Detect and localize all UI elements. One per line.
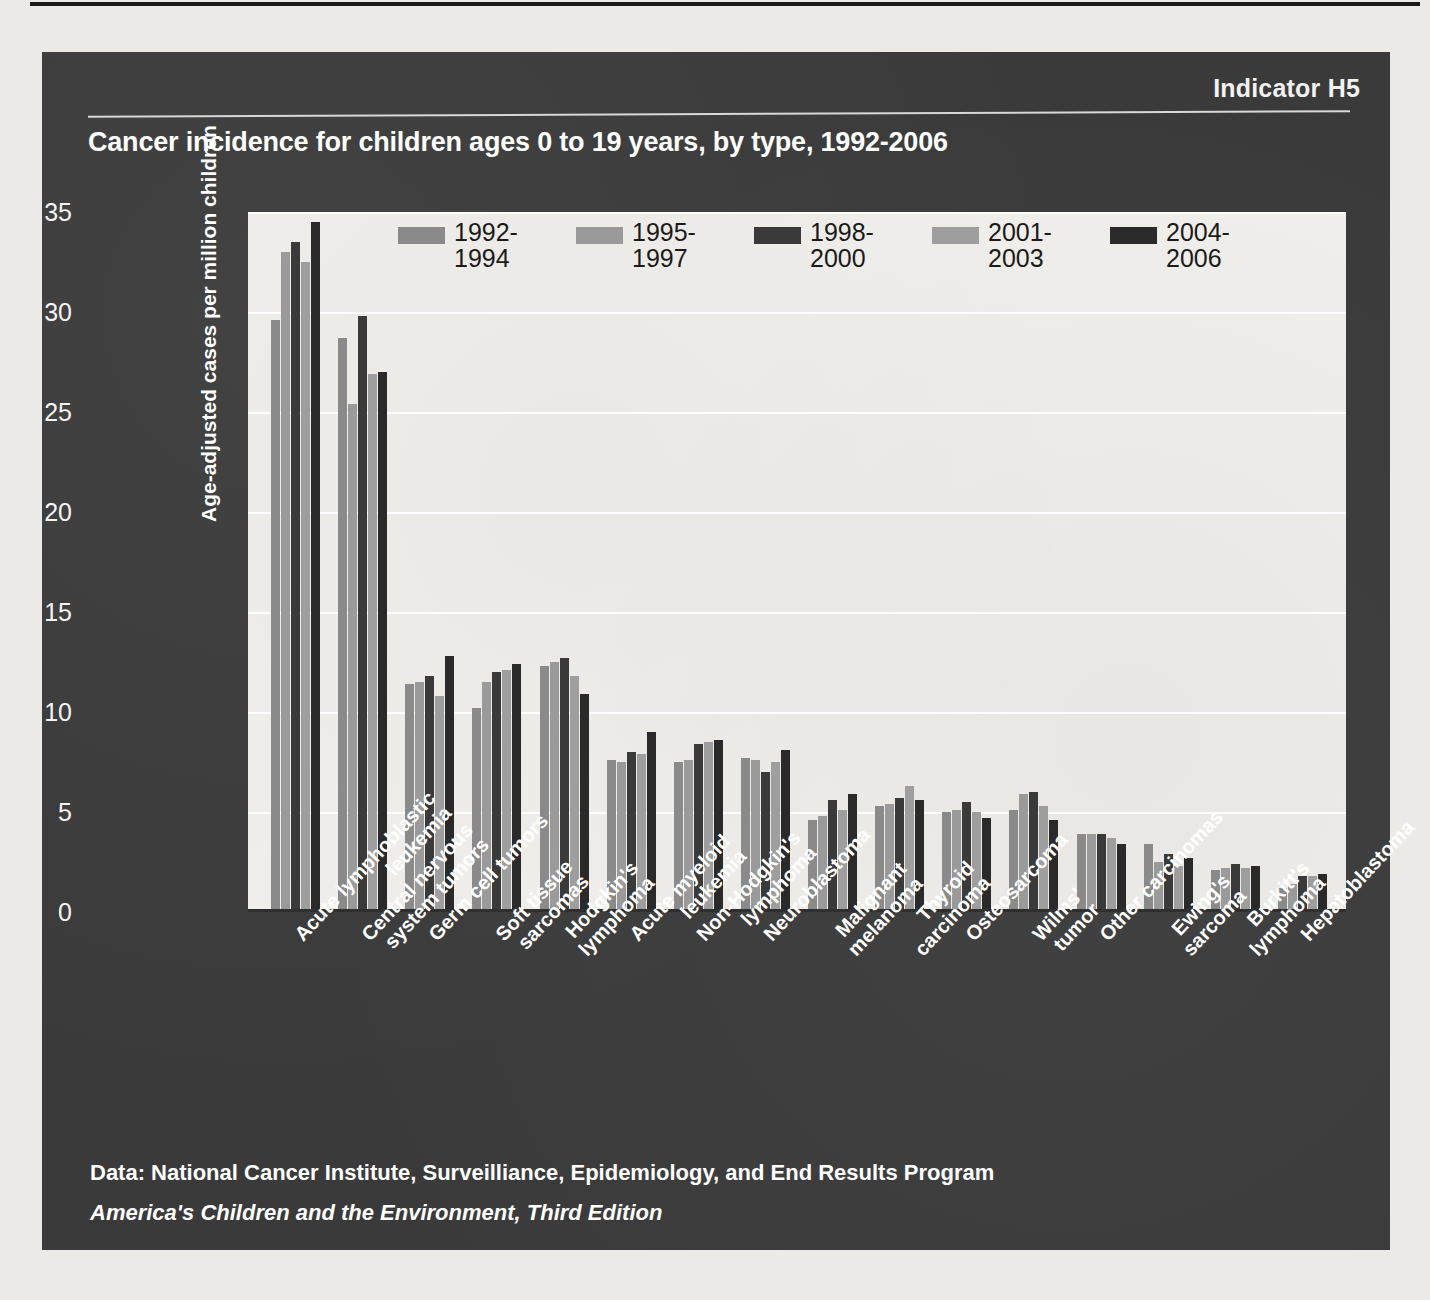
bar[interactable] — [291, 242, 300, 912]
bar-group — [1135, 212, 1202, 912]
legend-label: 1998-2000 — [810, 220, 896, 272]
x-axis-category-labels: Acute lymphoblasticleukemiaCentral nervo… — [248, 924, 1346, 1154]
y-tick-0: 0 — [12, 898, 72, 927]
chart-panel: Indicator H5 Cancer incidence for childr… — [42, 52, 1390, 1250]
legend-swatch-icon — [932, 227, 979, 244]
bar-group — [463, 212, 530, 912]
y-tick-25: 25 — [12, 398, 72, 427]
bar-group — [1068, 212, 1135, 912]
legend-item-2001-2003[interactable]: 2001-2003 — [932, 220, 1074, 272]
legend-label: 1992-1994 — [454, 220, 540, 272]
y-tick-5: 5 — [12, 798, 72, 827]
bar[interactable] — [311, 222, 320, 912]
bar-group — [329, 212, 396, 912]
bar-group — [866, 212, 933, 912]
y-tick-35: 35 — [12, 198, 72, 227]
bar-group — [1000, 212, 1067, 912]
bar[interactable] — [1097, 834, 1106, 912]
bar-group — [665, 212, 732, 912]
bar-group — [799, 212, 866, 912]
y-tick-20: 20 — [12, 498, 72, 527]
scan-artifact-line — [30, 2, 1420, 6]
bar[interactable] — [512, 664, 521, 912]
legend-swatch-icon — [754, 227, 801, 244]
y-tick-30: 30 — [12, 298, 72, 327]
legend-label: 2001-2003 — [988, 220, 1074, 272]
y-tick-10: 10 — [12, 698, 72, 727]
bar-group — [598, 212, 665, 912]
bar[interactable] — [281, 252, 290, 912]
indicator-label: Indicator H5 — [1213, 74, 1360, 103]
chart-legend: 1992-19941995-19971998-20002001-20032004… — [398, 220, 1252, 272]
legend-item-1995-1997[interactable]: 1995-1997 — [576, 220, 718, 272]
bar[interactable] — [338, 338, 347, 912]
legend-swatch-icon — [1110, 227, 1157, 244]
bar-group — [262, 212, 329, 912]
bar[interactable] — [301, 262, 310, 912]
legend-swatch-icon — [576, 227, 623, 244]
legend-item-1992-1994[interactable]: 1992-1994 — [398, 220, 540, 272]
y-tick-15: 15 — [12, 598, 72, 627]
edition-note: America's Children and the Environment, … — [90, 1200, 662, 1226]
y-axis-title: Age-adjusted cases per million children — [197, 125, 221, 522]
bar-group — [732, 212, 799, 912]
header-divider — [88, 110, 1350, 118]
bar[interactable] — [368, 374, 377, 912]
legend-label: 2004-2006 — [1166, 220, 1252, 272]
bar-group — [1269, 212, 1336, 912]
legend-label: 1995-1997 — [632, 220, 718, 272]
bar[interactable] — [358, 316, 367, 912]
bar[interactable] — [1107, 838, 1116, 912]
bar[interactable] — [271, 320, 280, 912]
source-note: Data: National Cancer Institute, Surveil… — [90, 1160, 994, 1186]
bar-group — [531, 212, 598, 912]
bar[interactable] — [348, 404, 357, 912]
legend-item-2004-2006[interactable]: 2004-2006 — [1110, 220, 1252, 272]
page-root: Indicator H5 Cancer incidence for childr… — [0, 0, 1430, 1300]
legend-item-1998-2000[interactable]: 1998-2000 — [754, 220, 896, 272]
bar-group — [933, 212, 1000, 912]
legend-swatch-icon — [398, 227, 445, 244]
